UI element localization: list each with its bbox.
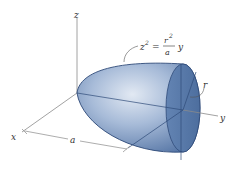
svg-text:a: a [165,48,170,57]
svg-text:2: 2 [144,39,149,46]
dimension-a-line-left [25,131,68,139]
svg-text:=: = [152,42,160,52]
radius-label: r [203,80,208,90]
z-axis-label: z [73,10,79,20]
svg-text:y: y [177,42,184,52]
equation-leader [124,46,138,62]
dimension-a-label: a [70,135,75,145]
x-axis-label: x [11,132,16,142]
svg-text:2: 2 [168,32,173,39]
y-axis-label: y [219,113,226,123]
equation: z 2 = r 2 a y [139,32,184,57]
dimension-a-tick-right [123,146,130,152]
x-axis [22,93,77,132]
dimension-a-line-right [80,141,127,149]
paraboloid-diagram: z x y r a z 2 = r 2 a y [0,0,236,175]
